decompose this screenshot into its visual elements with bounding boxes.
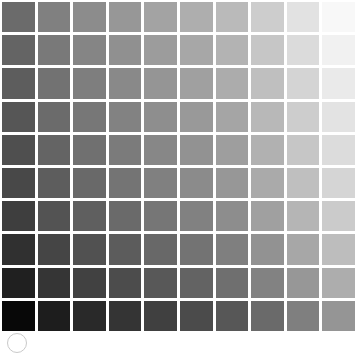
patch-cell: [216, 35, 249, 65]
patch-cell: [180, 102, 213, 132]
patch-cell: [109, 234, 142, 264]
patch-cell: [287, 102, 320, 132]
patch-cell: [73, 234, 106, 264]
patch-cell: [322, 35, 355, 65]
patch-cell: [287, 268, 320, 298]
patch-cell: [287, 2, 320, 32]
patch-cell: [251, 201, 284, 231]
patch-cell: [73, 2, 106, 32]
registration-circle-icon: [7, 333, 27, 353]
patch-cell: [38, 2, 71, 32]
patch-cell: [38, 268, 71, 298]
patch-cell: [216, 234, 249, 264]
patch-cell: [251, 168, 284, 198]
patch-cell: [109, 35, 142, 65]
patch-cell: [73, 168, 106, 198]
patch-cell: [109, 168, 142, 198]
patch-cell: [251, 301, 284, 331]
patch-cell: [73, 35, 106, 65]
patch-cell: [73, 135, 106, 165]
patch-cell: [38, 168, 71, 198]
patch-cell: [180, 135, 213, 165]
patch-cell: [216, 268, 249, 298]
patch-cell: [109, 268, 142, 298]
patch-cell: [287, 301, 320, 331]
patch-cell: [144, 234, 177, 264]
patch-cell: [109, 102, 142, 132]
patch-cell: [180, 35, 213, 65]
patch-cell: [109, 201, 142, 231]
patch-cell: [322, 201, 355, 231]
patch-cell: [322, 301, 355, 331]
patch-cell: [251, 234, 284, 264]
patch-cell: [109, 68, 142, 98]
patch-cell: [180, 301, 213, 331]
patch-cell: [109, 2, 142, 32]
patch-cell: [144, 102, 177, 132]
patch-cell: [287, 201, 320, 231]
patch-cell: [180, 268, 213, 298]
patch-cell: [38, 234, 71, 264]
patch-cell: [2, 234, 35, 264]
patch-cell: [180, 168, 213, 198]
patch-grid: [0, 0, 355, 331]
patch-cell: [109, 301, 142, 331]
patch-cell: [2, 35, 35, 65]
patch-cell: [322, 68, 355, 98]
patch-cell: [251, 135, 284, 165]
patch-cell: [38, 35, 71, 65]
patch-cell: [322, 135, 355, 165]
patch-cell: [144, 68, 177, 98]
patch-cell: [73, 68, 106, 98]
patch-cell: [322, 268, 355, 298]
patch-cell: [144, 135, 177, 165]
patch-cell: [144, 301, 177, 331]
patch-cell: [216, 201, 249, 231]
patch-cell: [2, 201, 35, 231]
patch-cell: [216, 2, 249, 32]
patch-cell: [251, 2, 284, 32]
patch-cell: [144, 168, 177, 198]
patch-cell: [287, 35, 320, 65]
patch-cell: [251, 268, 284, 298]
patch-cell: [2, 268, 35, 298]
patch-cell: [216, 301, 249, 331]
patch-cell: [216, 168, 249, 198]
patch-cell: [180, 234, 213, 264]
patch-cell: [180, 201, 213, 231]
patch-cell: [251, 102, 284, 132]
patch-cell: [2, 68, 35, 98]
patch-cell: [322, 234, 355, 264]
patch-cell: [2, 135, 35, 165]
patch-cell: [287, 68, 320, 98]
patch-cell: [38, 135, 71, 165]
patch-cell: [73, 268, 106, 298]
patch-cell: [2, 301, 35, 331]
patch-cell: [2, 2, 35, 32]
patch-cell: [109, 135, 142, 165]
patch-cell: [144, 268, 177, 298]
patch-cell: [2, 168, 35, 198]
patch-cell: [144, 201, 177, 231]
patch-cell: [2, 102, 35, 132]
patch-cell: [251, 35, 284, 65]
patch-cell: [322, 168, 355, 198]
patch-cell: [287, 168, 320, 198]
patch-cell: [73, 201, 106, 231]
patch-cell: [251, 68, 284, 98]
patch-cell: [216, 68, 249, 98]
patch-cell: [216, 102, 249, 132]
patch-cell: [180, 2, 213, 32]
patch-cell: [73, 102, 106, 132]
patch-cell: [38, 68, 71, 98]
patch-cell: [38, 102, 71, 132]
patch-cell: [322, 102, 355, 132]
patch-cell: [322, 2, 355, 32]
patch-cell: [144, 35, 177, 65]
patch-cell: [73, 301, 106, 331]
patch-cell: [287, 135, 320, 165]
patch-cell: [38, 301, 71, 331]
patch-cell: [38, 201, 71, 231]
patch-cell: [216, 135, 249, 165]
